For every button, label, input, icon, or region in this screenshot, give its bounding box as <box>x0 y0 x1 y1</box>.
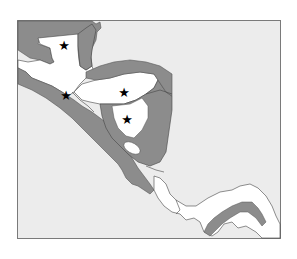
central-america-map: ★ ★ ★ ★ <box>0 0 297 259</box>
star-icon: ★ <box>60 88 72 103</box>
star-icon: ★ <box>118 85 130 100</box>
star-icon: ★ <box>58 38 70 53</box>
star-icon: ★ <box>121 112 133 127</box>
